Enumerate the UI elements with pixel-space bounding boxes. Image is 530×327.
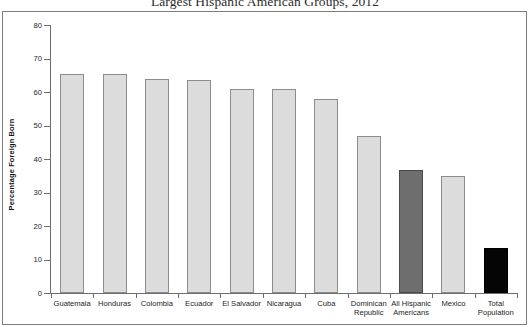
x-axis-tick (136, 293, 137, 298)
x-axis-tick (51, 293, 52, 298)
bar (314, 99, 338, 293)
y-axis-tick-label: 0 (20, 289, 42, 298)
x-axis-tick (178, 293, 179, 298)
y-axis-tick (44, 260, 50, 261)
x-axis-category-label: El Salvador (220, 299, 262, 308)
x-axis-tick (93, 293, 94, 298)
y-axis-tick-label: 80 (20, 21, 42, 30)
x-axis-category-label: Total Population (475, 299, 517, 318)
y-axis-tick (44, 226, 50, 227)
bar (230, 89, 254, 293)
y-axis-tick-label: 60 (20, 88, 42, 97)
x-axis-tick (348, 293, 349, 298)
y-axis-tick (44, 25, 50, 26)
y-axis-tick-label: 10 (20, 255, 42, 264)
x-axis-category-label: Guatemala (51, 299, 93, 308)
y-axis-tick-label: 50 (20, 121, 42, 130)
y-axis-line (50, 25, 51, 294)
y-axis-tick (44, 92, 50, 93)
chart-figure: Largest Hispanic American Groups, 2012 P… (0, 0, 530, 327)
x-axis-tick (432, 293, 433, 298)
x-axis-tick (475, 293, 476, 298)
chart-title: Largest Hispanic American Groups, 2012 (0, 0, 530, 10)
x-axis-tick (305, 293, 306, 298)
x-axis-category-label: Honduras (93, 299, 135, 308)
bar (60, 74, 84, 293)
x-axis-category-label: Colombia (136, 299, 178, 308)
y-axis-tick (44, 159, 50, 160)
x-axis-tick (517, 293, 518, 298)
y-axis-tick (44, 193, 50, 194)
x-axis-category-label: Ecuador (178, 299, 220, 308)
y-axis-tick-label: 40 (20, 155, 42, 164)
bar (145, 79, 169, 293)
x-axis-category-label: Cuba (305, 299, 347, 308)
bar (357, 136, 381, 293)
x-axis-tick (390, 293, 391, 298)
x-axis-tick (220, 293, 221, 298)
y-axis-tick-label: 70 (20, 54, 42, 63)
x-axis-line (50, 293, 517, 294)
y-axis-tick-label: 30 (20, 188, 42, 197)
x-axis-category-label: All Hispanic Americans (390, 299, 432, 318)
y-axis-title: Percentage Foreign Born (7, 100, 16, 230)
x-axis-category-label: Mexico (432, 299, 474, 308)
bar (187, 80, 211, 293)
bar (399, 170, 423, 293)
x-axis-tick (263, 293, 264, 298)
x-axis-category-label: Nicaragua (263, 299, 305, 308)
bar (441, 176, 465, 293)
x-axis-category-label: Dominican Republic (348, 299, 390, 318)
y-axis-tick (44, 59, 50, 60)
y-axis-tick-label: 20 (20, 222, 42, 231)
y-axis-tick (44, 293, 50, 294)
bar (272, 89, 296, 293)
bar (484, 248, 508, 293)
y-axis-tick (44, 126, 50, 127)
bar (103, 74, 127, 293)
